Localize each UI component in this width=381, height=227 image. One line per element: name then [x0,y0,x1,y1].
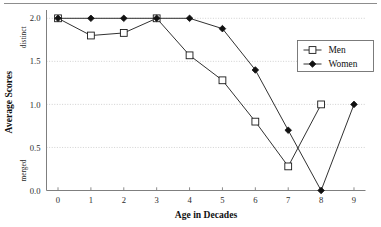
y-tick-label-1.5: 1.5 [30,56,41,66]
x-tick-label-8: 8 [319,195,323,205]
x-tick-label-5: 5 [220,195,224,205]
chart-figure: 0123456789 0.00.51.01.52.0 distinct merg… [0,0,381,227]
legend-label-men: Men [329,45,346,55]
x-tick-label-4: 4 [187,195,192,205]
data-point-men-4 [186,52,193,59]
data-point-women-4 [186,15,193,22]
data-point-men-2 [120,30,127,37]
x-tick-labels-group: 0123456789 [56,195,356,205]
x-tick-label-2: 2 [122,195,126,205]
data-point-women-1 [88,15,95,22]
data-point-women-9 [351,101,358,108]
data-point-men-1 [87,32,94,39]
legend-label-women: Women [329,59,358,69]
x-axis-title: Age in Decades [175,209,238,220]
y-axis-endpoint-label-distinct: distinct [19,25,28,48]
y-tick-label-0.0: 0.0 [30,186,41,196]
y-tick-label-1.0: 1.0 [30,100,41,110]
series-line-men [58,18,321,166]
data-point-women-7 [285,127,292,134]
data-point-men-5 [219,77,226,84]
chart-legend[interactable]: MenWomen [298,41,374,72]
y-tick-label-0.5: 0.5 [30,143,41,153]
line-chart-plot: 0123456789 0.00.51.01.52.0 distinct merg… [0,0,381,227]
data-point-men-7 [285,163,292,170]
x-tick-label-9: 9 [352,195,356,205]
x-tick-label-1: 1 [89,195,93,205]
x-tick-label-3: 3 [155,195,159,205]
data-point-men-6 [252,118,259,125]
legend-marker-men [309,47,316,54]
y-axis-title: Average Scores [3,71,14,134]
x-tick-label-7: 7 [286,195,291,205]
x-tick-label-6: 6 [253,195,258,205]
data-point-women-2 [120,15,127,22]
y-tick-label-2.0: 2.0 [30,13,41,23]
data-point-men-8 [318,101,325,108]
series-men [55,15,325,170]
x-tick-label-0: 0 [56,195,60,205]
data-point-women-8 [318,187,325,194]
y-tick-labels-group: 0.00.51.01.52.0 [30,13,41,195]
y-axis-endpoint-label-merged: merged [19,159,28,181]
